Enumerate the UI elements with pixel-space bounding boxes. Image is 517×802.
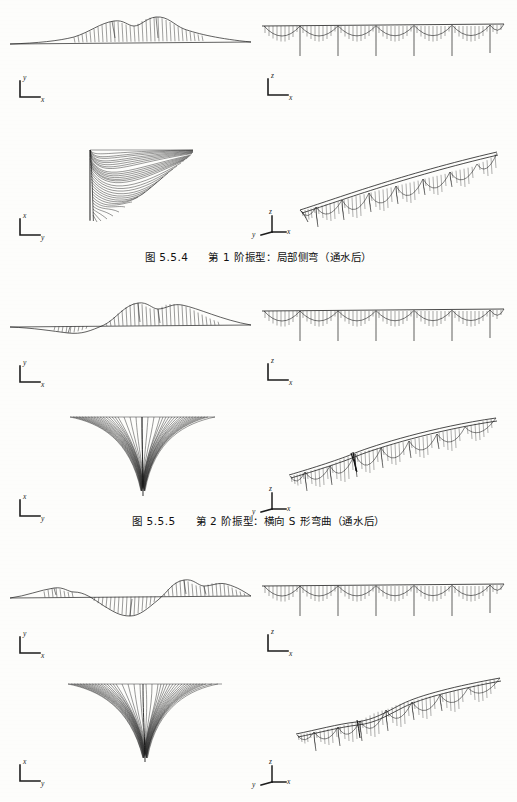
triad-3-perspective-vertical-label: z <box>268 757 272 766</box>
triad-1-bottom-plan-vertical-label: x <box>22 211 27 220</box>
caption-number-2: 图 5.5.5 <box>132 515 176 527</box>
mode-3-elevation-chart <box>258 572 508 626</box>
triad-3-elevation-vertical-label: z <box>270 627 274 636</box>
triad-3-bottom-plan-horizontal-label: y <box>40 779 45 788</box>
triad-1-perspective: z x y <box>250 206 296 240</box>
figure-group-mode-3: y x <box>0 560 517 802</box>
triad-2-plan-vertical-label: y <box>22 358 27 367</box>
caption-text-2: 第 2 阶振型：横向 S 形弯曲（通水后） <box>196 515 385 527</box>
document-page: y x <box>0 0 517 802</box>
triad-3-perspective: z x y <box>250 756 296 790</box>
triad-3-plan-horizontal-label: x <box>40 651 45 660</box>
mode-2-elevation-chart <box>258 297 508 351</box>
mode-1-elevation-chart <box>258 12 508 66</box>
triad-1-elevation-vertical-label: z <box>270 71 274 80</box>
triad-2-elevation: z x <box>258 355 304 389</box>
triad-3-bottom-plan: x y <box>10 756 56 790</box>
mode-1-bottom-plan-chart <box>75 142 200 227</box>
figure-caption-5-5-4: 图 5.5.4 第 1 阶振型：局部侧弯（通水后） <box>0 249 517 264</box>
figure-group-mode-1: y x <box>0 0 517 270</box>
triad-1-plan-vertical-label: y <box>22 73 27 82</box>
triad-1-plan-horizontal-label: x <box>40 95 45 104</box>
triad-3-bottom-plan-vertical-label: x <box>22 757 27 766</box>
triad-3-plan: y x <box>10 628 56 662</box>
mode-2-plan-chart <box>8 293 253 351</box>
triad-1-bottom-plan: x y <box>10 210 56 244</box>
triad-1-elevation-horizontal-label: x <box>288 93 293 102</box>
triad-3-perspective-depth-label: y <box>251 780 256 789</box>
caption-number-1: 图 5.5.4 <box>145 251 189 263</box>
triad-2-perspective: z x y <box>250 483 296 517</box>
triad-1-perspective-horizontal-label: x <box>286 227 291 236</box>
triad-2-plan-horizontal-label: x <box>40 380 45 389</box>
triad-3-perspective-horizontal-label: x <box>286 777 291 786</box>
mode-1-perspective-chart <box>292 148 507 230</box>
mode-3-perspective-chart <box>290 672 508 754</box>
triad-3-elevation: z x <box>258 626 304 660</box>
triad-1-bottom-plan-horizontal-label: y <box>40 233 45 242</box>
mode-1-plan-chart <box>8 8 253 66</box>
triad-2-bottom-plan-vertical-label: x <box>22 492 27 501</box>
mode-2-bottom-plan-chart <box>60 403 225 498</box>
triad-2-elevation-vertical-label: z <box>270 356 274 365</box>
triad-1-elevation: z x <box>258 70 304 104</box>
figure-caption-5-5-5: 图 5.5.5 第 2 阶振型：横向 S 形弯曲（通水后） <box>0 513 517 528</box>
triad-1-perspective-vertical-label: z <box>268 207 272 216</box>
triad-1-perspective-depth-label: y <box>251 230 256 239</box>
triad-3-elevation-horizontal-label: x <box>288 649 293 658</box>
triad-2-perspective-horizontal-label: x <box>286 504 291 513</box>
triad-2-plan: y x <box>10 357 56 391</box>
mode-2-perspective-chart <box>283 415 508 495</box>
figure-group-mode-2: y x <box>0 285 517 541</box>
triad-3-plan-vertical-label: y <box>22 629 27 638</box>
mode-3-bottom-plan-chart <box>60 672 230 764</box>
caption-text-1: 第 1 阶振型：局部侧弯（通水后） <box>208 251 372 263</box>
triad-2-perspective-vertical-label: z <box>268 484 272 493</box>
mode-3-plan-chart <box>8 568 253 626</box>
triad-1-plan: y x <box>10 72 56 106</box>
triad-2-elevation-horizontal-label: x <box>288 378 293 387</box>
